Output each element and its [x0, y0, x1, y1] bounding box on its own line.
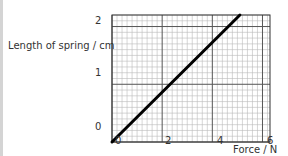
x-tick-2: 2: [165, 135, 171, 147]
chart-plot-area: [0, 0, 288, 156]
x-tick-0: 0: [115, 135, 121, 147]
y-tick-1: 1: [95, 67, 101, 79]
y-tick-2: 2: [95, 15, 101, 27]
y-tick-0: 0: [95, 121, 101, 133]
minor-gridlines: [112, 15, 270, 142]
x-axis-label: Force / N: [233, 144, 277, 156]
y-axis-label: Length of spring / cm: [8, 40, 115, 52]
x-tick-4: 4: [217, 135, 223, 147]
